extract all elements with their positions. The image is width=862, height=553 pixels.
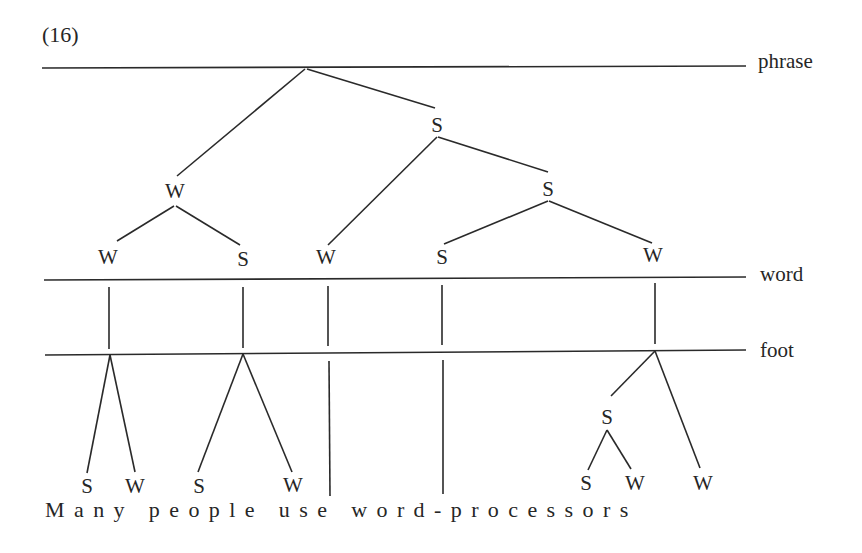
syllable-node: W (693, 471, 713, 495)
phrase-node-ss: S (542, 177, 554, 201)
metrical-tree-diagram: (16) phrase word foot S W S W S W S W (0, 0, 862, 553)
example-number: (16) (42, 22, 79, 47)
word-node-word: S (436, 245, 448, 269)
word-foot-stems (109, 283, 655, 349)
phrase-node-s: S (431, 113, 443, 137)
word-level-line (44, 277, 746, 280)
word-node-processors: W (643, 243, 663, 267)
phrase-branches (117, 69, 652, 245)
syllable-node: S (81, 474, 93, 498)
syllable-node: S (193, 474, 205, 498)
syllable-node: S (580, 471, 592, 495)
foot-level-label: foot (760, 338, 794, 362)
syllable-node: W (125, 474, 145, 498)
word-node-many: W (98, 245, 118, 269)
foot-level-line (45, 350, 746, 355)
word-level-label: word (760, 262, 804, 286)
word-node-people: S (237, 247, 249, 271)
word-node-use: W (316, 245, 336, 269)
sentence: Many people use word-processors (45, 497, 638, 522)
phrase-node-w: W (165, 179, 185, 203)
syllable-node: W (283, 473, 303, 497)
phrase-level-label: phrase (758, 49, 813, 73)
phrase-level-line (42, 66, 746, 68)
syllable-node: W (625, 471, 645, 495)
foot-node-s: S (601, 405, 613, 429)
